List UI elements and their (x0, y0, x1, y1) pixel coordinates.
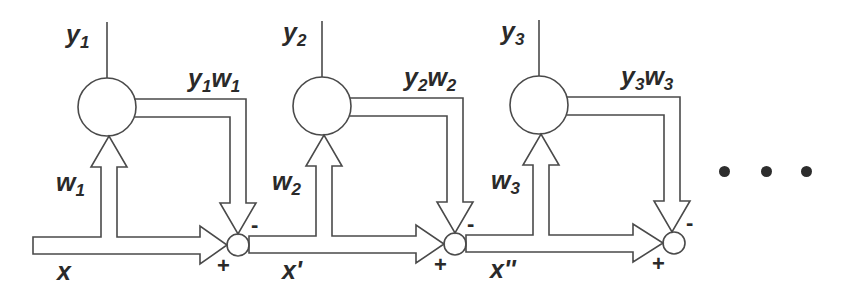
label-w: w (644, 62, 663, 90)
label-subscript: 3 (510, 179, 519, 198)
label-w: w (56, 168, 75, 196)
weight-label-1: w1 (56, 170, 85, 199)
plus-sign-1: + (217, 255, 230, 277)
neuron-1 (78, 78, 136, 136)
minus-sign-3: - (686, 212, 693, 234)
ellipsis-dot-2 (761, 166, 772, 177)
label-y: y (188, 64, 202, 92)
ellipsis-dot-1 (719, 166, 730, 177)
feedback-arrow-2 (350, 98, 473, 233)
label-y: y (66, 20, 80, 48)
summing-node-1 (227, 234, 249, 256)
feedback-label-1: y1w1 (188, 66, 240, 95)
output-label-3: y3 (501, 19, 524, 48)
label-w: w (491, 166, 510, 194)
label-w: w (427, 63, 446, 91)
minus-sign-2: - (467, 213, 474, 235)
stage-2 (249, 21, 473, 263)
feedback-arrow-1 (134, 99, 256, 234)
input-label-1: x (57, 259, 71, 284)
stage-3 (466, 20, 690, 262)
plus-sign-3: + (652, 253, 665, 275)
label-subscript: 1 (80, 33, 89, 52)
label-w: w (272, 167, 291, 195)
plus-sign-2: + (434, 254, 447, 276)
label-y: y (283, 18, 297, 46)
neuron-2 (293, 77, 351, 135)
input-label-2: x' (282, 258, 302, 283)
input-arrow-1 (33, 136, 227, 264)
label-subscript: 3 (515, 30, 524, 49)
stage-1 (33, 22, 256, 264)
minus-sign-1: - (251, 214, 258, 236)
label-y: y (404, 63, 418, 91)
label-subscript: 3 (664, 75, 673, 94)
label-subscript: 1 (75, 181, 84, 200)
label-subscript: 2 (447, 76, 456, 95)
label-subscript: 3 (635, 75, 644, 94)
output-label-1: y1 (66, 22, 89, 51)
feedback-label-2: y2w2 (404, 65, 456, 94)
feedback-label-3: y3w3 (621, 64, 673, 93)
weight-label-3: w3 (491, 168, 520, 197)
output-label-2: y2 (283, 20, 306, 49)
ellipsis-dot-3 (801, 166, 812, 177)
summing-node-2 (444, 233, 466, 255)
input-arrow-3 (466, 134, 663, 262)
weight-label-2: w2 (272, 169, 301, 198)
label-subscript: 2 (297, 31, 306, 50)
label-y: y (621, 62, 635, 90)
summing-node-3 (663, 232, 685, 254)
label-w: w (211, 64, 230, 92)
input-arrow-2 (249, 135, 444, 263)
cascade-diagram: y1 y1w1 w1 x - + y2 y2w2 w2 x' - + y3 y3… (0, 0, 841, 295)
label-y: y (501, 17, 515, 45)
label-subscript: 1 (231, 77, 240, 96)
label-subscript: 1 (202, 77, 211, 96)
label-subscript: 2 (418, 76, 427, 95)
input-label-3: x'' (490, 257, 516, 282)
diagram-graphics (0, 0, 841, 295)
neuron-3 (510, 76, 568, 134)
feedback-arrow-3 (567, 97, 690, 232)
label-subscript: 2 (291, 180, 300, 199)
